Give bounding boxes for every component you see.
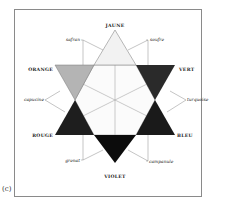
- label-turquoise: turquoise: [187, 97, 209, 102]
- label-violet: VIOLET: [103, 174, 126, 179]
- label-soufre: soufre: [150, 37, 164, 42]
- color-star-diagram: JAUNE ORANGE VERT ROUGE BLEU VIOLET safr…: [0, 0, 227, 205]
- label-campanule: campanule: [149, 159, 174, 164]
- label-vert: VERT: [178, 67, 195, 72]
- label-jaune: JAUNE: [105, 23, 125, 28]
- label-capucine: capucine: [24, 97, 44, 102]
- label-orange: ORANGE: [28, 67, 53, 72]
- label-bleu: BLEU: [177, 133, 193, 138]
- triangle-violet: [94, 135, 136, 163]
- label-safran: safran: [66, 37, 80, 42]
- label-rouge: ROUGE: [32, 133, 53, 138]
- label-grenat: grenat: [65, 158, 80, 163]
- triangle-jaune: [94, 30, 136, 65]
